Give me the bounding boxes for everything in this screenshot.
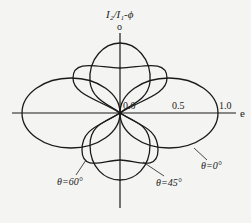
label-theta-60: θ=60° <box>57 177 83 187</box>
tick-0-5: 0.5 <box>172 101 185 111</box>
leader-theta-60 <box>76 160 86 175</box>
leader-theta-0 <box>194 148 207 160</box>
diagram-canvas <box>0 0 251 223</box>
diagram-title: I₂/I₁-ϕ <box>106 9 133 20</box>
label-theta-0: θ=0° <box>201 161 222 171</box>
polar-diagram: I₂/I₁-ϕ o e 0.0 0.5 1.0 θ=0° θ=45° θ=60° <box>0 0 251 223</box>
tick-1: 1.0 <box>219 101 232 111</box>
leader-theta-45 <box>143 162 164 176</box>
vertical-axis-label: o <box>117 22 122 32</box>
horizontal-axis-label: e <box>240 108 245 119</box>
label-theta-45: θ=45° <box>156 178 182 188</box>
tick-0: 0.0 <box>123 101 136 111</box>
